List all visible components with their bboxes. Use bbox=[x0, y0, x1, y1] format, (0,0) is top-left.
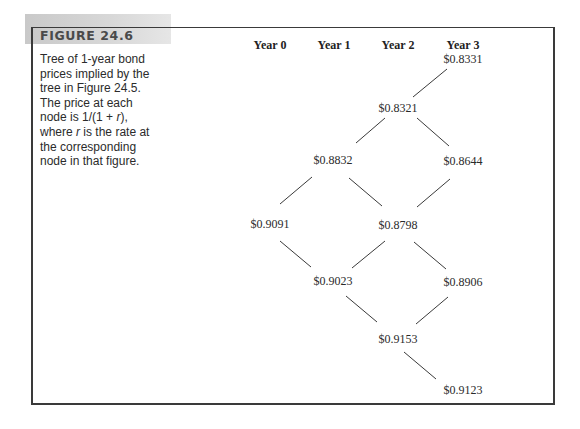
tree-edge bbox=[352, 241, 385, 268]
year-column-headers: Year 0Year 1Year 2Year 3 bbox=[254, 38, 480, 52]
bond-price-tree: Year 0Year 1Year 2Year 3 $0.8331$0.8321$… bbox=[0, 0, 580, 429]
tree-edge bbox=[413, 69, 447, 97]
tree-node-price: $0.9153 bbox=[379, 332, 418, 346]
year-header-2: Year 2 bbox=[382, 38, 415, 52]
tree-node-price: $0.8832 bbox=[314, 153, 353, 167]
tree-node-price: $0.8321 bbox=[379, 101, 418, 115]
tree-edge bbox=[280, 241, 311, 267]
tree-edge bbox=[349, 178, 382, 206]
year-header-0: Year 0 bbox=[254, 38, 287, 52]
tree-edge bbox=[356, 118, 385, 143]
tree-node-price: $0.9091 bbox=[251, 217, 290, 231]
tree-edges bbox=[280, 69, 450, 379]
tree-edge bbox=[346, 296, 377, 322]
tree-node-price: $0.9123 bbox=[444, 383, 483, 397]
tree-edge bbox=[404, 352, 436, 379]
year-header-3: Year 3 bbox=[447, 38, 480, 52]
tree-edge bbox=[416, 297, 448, 324]
tree-node-price: $0.8906 bbox=[444, 275, 483, 289]
tree-edge bbox=[417, 179, 450, 207]
tree-edge bbox=[280, 177, 312, 204]
tree-node-price: $0.8331 bbox=[444, 52, 483, 66]
tree-edge bbox=[414, 242, 446, 269]
tree-node-price: $0.9023 bbox=[314, 274, 353, 288]
tree-edge bbox=[417, 118, 449, 146]
tree-nodes: $0.8331$0.8321$0.8832$0.8644$0.9091$0.87… bbox=[251, 52, 483, 397]
tree-node-price: $0.8798 bbox=[379, 218, 418, 232]
year-header-1: Year 1 bbox=[318, 38, 351, 52]
tree-node-price: $0.8644 bbox=[444, 154, 483, 168]
